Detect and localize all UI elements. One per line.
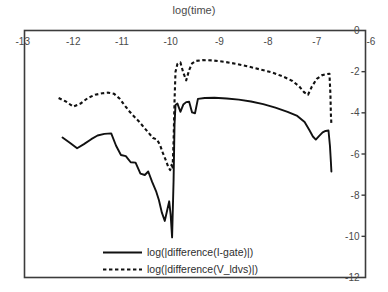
chart-svg: log(time) -13-12-11-10-9-8-7-6 0-2-4-6-8… (0, 0, 388, 292)
y-axis-tick-labels: 0-2-4-6-8-10-12 (345, 25, 360, 283)
x-tick-label-2: -11 (115, 36, 129, 47)
series-line-v-ldvs (59, 60, 332, 170)
y-tick-label-0: 0 (354, 25, 360, 36)
legend-label-i-gate: log(|difference(I-gate)|) (147, 246, 253, 258)
x-tick-label-1: -12 (66, 36, 81, 47)
y-tick-label-6: -12 (345, 272, 360, 283)
legend-label-v-ldvs: log(|difference(V_ldvs)|) (147, 263, 258, 275)
chart-figure: log(time) -13-12-11-10-9-8-7-6 0-2-4-6-8… (0, 0, 388, 292)
plot-frame (25, 31, 366, 278)
y-tick-label-3: -6 (351, 149, 360, 160)
y-tick-label-2: -4 (351, 107, 360, 118)
x-tick-label-0: -13 (16, 36, 31, 47)
x-tick-label-3: -10 (163, 36, 178, 47)
y-tick-label-1: -2 (351, 66, 360, 77)
x-tick-label-6: -7 (312, 36, 321, 47)
y-tick-label-4: -8 (351, 190, 360, 201)
x-tick-label-5: -8 (264, 36, 273, 47)
x-tick-label-7: -6 (367, 36, 376, 47)
x-tick-label-4: -9 (215, 36, 224, 47)
chart-title: log(time) (173, 4, 216, 16)
chart-legend: log(|difference(I-gate)|) log(|differenc… (103, 246, 258, 275)
x-axis-tick-labels: -13-12-11-10-9-8-7-6 (16, 36, 376, 47)
y-tick-label-5: -10 (345, 231, 360, 242)
series-line-i-gate (63, 98, 332, 238)
